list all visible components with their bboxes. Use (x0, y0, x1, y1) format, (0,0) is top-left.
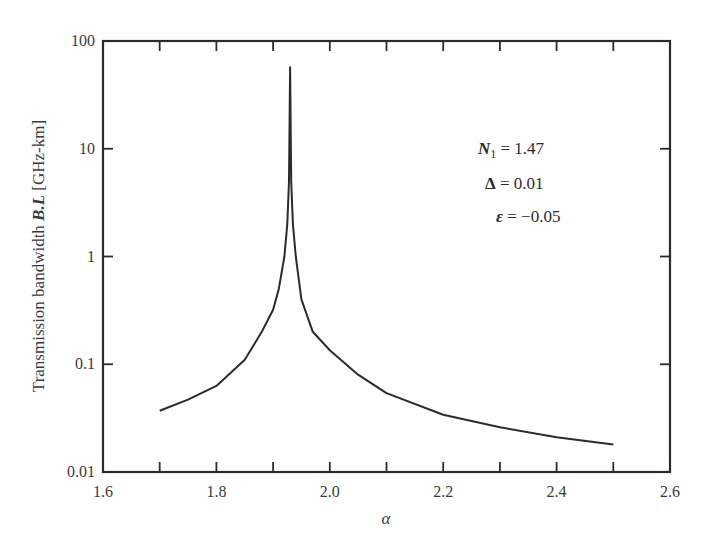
x-tick-label: 2.2 (433, 483, 453, 500)
x-tick-label: 2.6 (660, 483, 680, 500)
x-tick-label: 1.8 (206, 483, 226, 500)
y-axis-label-prefix: Transmission bandwidth (29, 221, 48, 392)
x-tick-label: 1.6 (93, 483, 113, 500)
annotation-n1: N1 = 1.47 (477, 139, 545, 161)
y-tick-label: 100 (71, 32, 95, 49)
y-axis-label: Transmission bandwidth B.L [GHz-km] (29, 120, 48, 392)
parameter-annotations: N1 = 1.47 Δ = 0.01 ε = −0.05 (477, 139, 560, 226)
y-axis-ticks: 0.010.1110100 (67, 32, 670, 480)
annotation-delta: Δ = 0.01 (485, 174, 544, 193)
data-series (160, 67, 614, 444)
x-tick-label: 2.0 (320, 483, 340, 500)
y-axis-label-suffix: [GHz-km] (29, 120, 48, 195)
y-tick-label: 10 (79, 140, 95, 157)
y-axis-label-emph: B.L (29, 195, 48, 222)
plot-border (103, 41, 670, 472)
annotation-epsilon: ε = −0.05 (496, 207, 560, 226)
x-tick-label: 2.4 (547, 483, 567, 500)
y-tick-label: 0.01 (67, 463, 95, 480)
y-tick-label: 1 (87, 248, 95, 265)
x-axis-ticks: 1.61.82.02.22.42.6 (93, 41, 680, 500)
y-tick-label: 0.1 (75, 355, 95, 372)
chart: 1.61.82.02.22.42.6 0.010.1110100 α Trans… (0, 0, 703, 552)
x-axis-label: α (382, 509, 392, 528)
series-line (160, 67, 614, 444)
plot-frame (103, 41, 670, 472)
